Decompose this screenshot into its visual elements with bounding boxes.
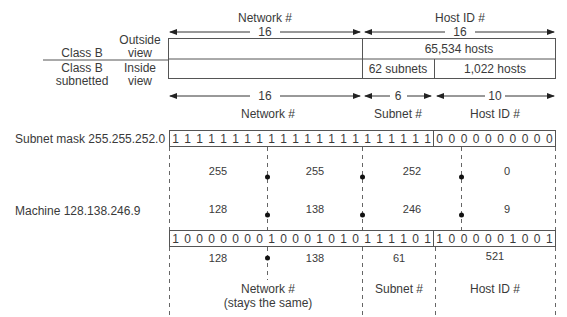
machine-bit: 0 — [184, 232, 191, 246]
mask-bit: 0 — [522, 132, 529, 146]
machine-bit: 0 — [256, 232, 263, 246]
result-network-note: (stays the same) — [224, 296, 313, 310]
split-subnet-label: Subnet # — [374, 107, 422, 121]
mask-bit: 0 — [448, 132, 455, 146]
mask-bit: 1 — [268, 132, 275, 146]
mask-bit: 1 — [424, 132, 431, 146]
mask-bit: 1 — [376, 132, 383, 146]
machine-bit: 1 — [172, 232, 179, 246]
mask-bit: 0 — [509, 132, 516, 146]
top-host-bits: 16 — [453, 25, 467, 39]
result-network-octet-2: 138 — [306, 252, 324, 264]
machine-bit: 0 — [280, 232, 287, 246]
machine-bit: 0 — [473, 232, 480, 246]
class-b-subnetted-label-1: Class B — [61, 61, 102, 75]
split-host-bits: 10 — [488, 89, 502, 103]
mask-bit: 0 — [497, 132, 504, 146]
machine-bit: 1 — [509, 232, 516, 246]
mask-bit: 1 — [352, 132, 359, 146]
split-network-label: Network # — [241, 107, 295, 121]
machine-bit: 1 — [424, 232, 431, 246]
outside-view-label-2: view — [128, 46, 152, 60]
result-subnet-label: Subnet # — [375, 282, 423, 296]
machine-bit: 0 — [304, 232, 311, 246]
mask-bit: 1 — [328, 132, 335, 146]
result-network-octet-1: 128 — [209, 252, 227, 264]
mask-bit: 0 — [473, 132, 480, 146]
mask-bit: 1 — [232, 132, 239, 146]
mask-bit: 1 — [412, 132, 419, 146]
machine-bit: 0 — [522, 232, 529, 246]
mask-bit: 1 — [340, 132, 347, 146]
mask-bit: 1 — [400, 132, 407, 146]
machine-bit: 0 — [220, 232, 227, 246]
outside-host-cell: 65,534 hosts — [425, 42, 494, 56]
machine-octet-2: 138 — [306, 203, 324, 215]
machine-bit: 0 — [352, 232, 359, 246]
machine-bit: 1 — [436, 232, 443, 246]
machine-bit: 1 — [364, 232, 371, 246]
mask-bit: 0 — [485, 132, 492, 146]
result-dot — [265, 256, 270, 261]
top-network-bits: 16 — [258, 25, 272, 39]
machine-bit: 0 — [534, 232, 541, 246]
machine-label: Machine 128.138.246.9 — [15, 204, 141, 218]
machine-bit: 1 — [546, 232, 553, 246]
machine-bit: 0 — [328, 232, 335, 246]
mask-bit: 1 — [208, 132, 215, 146]
machine-bit: 0 — [196, 232, 203, 246]
top-network-label: Network # — [238, 11, 292, 25]
mask-octet-2: 255 — [306, 165, 324, 177]
mask-bit: 1 — [256, 132, 263, 146]
mask-bit: 0 — [534, 132, 541, 146]
mask-bit: 1 — [316, 132, 323, 146]
machine-dots — [265, 213, 464, 218]
mask-bit: 1 — [292, 132, 299, 146]
machine-bit: 0 — [244, 232, 251, 246]
machine-bit: 1 — [340, 232, 347, 246]
result-host-value: 521 — [486, 250, 504, 262]
mask-dots — [265, 175, 464, 180]
machine-octet-1: 128 — [209, 203, 227, 215]
mask-bit: 1 — [244, 132, 251, 146]
split-subnet-bits: 6 — [395, 89, 402, 103]
mask-octet-3: 252 — [403, 165, 421, 177]
machine-bit: 1 — [316, 232, 323, 246]
inside-view-label-2: view — [128, 74, 152, 88]
mask-bit: 1 — [304, 132, 311, 146]
mask-octet-1: 255 — [209, 165, 227, 177]
machine-bit: 0 — [448, 232, 455, 246]
subnet-diagram: Network # Host ID # 16 16 Class B Outsid… — [0, 0, 567, 317]
split-network-bits: 16 — [258, 89, 272, 103]
mask-bits: 11111111111111111111110000000000 — [172, 132, 553, 146]
split-host-label: Host ID # — [470, 107, 520, 121]
mask-bit: 0 — [461, 132, 468, 146]
mask-bit: 1 — [220, 132, 227, 146]
mask-bit: 0 — [436, 132, 443, 146]
mask-octet-4: 0 — [504, 165, 510, 177]
outside-view-label-1: Outside — [119, 33, 161, 47]
class-b-subnetted-label-2: subnetted — [56, 74, 109, 88]
mask-bit: 0 — [546, 132, 553, 146]
machine-bit: 1 — [376, 232, 383, 246]
machine-bit: 0 — [497, 232, 504, 246]
inside-view-label-1: Inside — [124, 61, 156, 75]
machine-bit: 0 — [292, 232, 299, 246]
machine-bit: 0 — [461, 232, 468, 246]
machine-bit: 1 — [268, 232, 275, 246]
mask-bit: 1 — [172, 132, 179, 146]
octet-dividers — [170, 147, 556, 230]
machine-bit: 0 — [485, 232, 492, 246]
machine-bit: 0 — [412, 232, 419, 246]
mask-bit: 1 — [388, 132, 395, 146]
mask-bit: 1 — [280, 132, 287, 146]
machine-bit: 1 — [400, 232, 407, 246]
machine-octet-4: 9 — [504, 203, 510, 215]
mask-bit: 1 — [184, 132, 191, 146]
result-subnet-value: 61 — [393, 252, 405, 264]
machine-bit: 1 — [388, 232, 395, 246]
inside-subnet-cell: 62 subnets — [369, 62, 428, 76]
mask-bit: 1 — [364, 132, 371, 146]
machine-bit: 0 — [208, 232, 215, 246]
result-network-label: Network # — [241, 282, 295, 296]
